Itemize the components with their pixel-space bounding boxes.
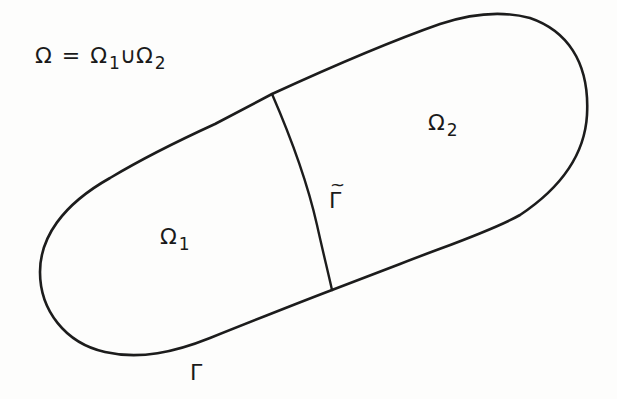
omega1-subscript: 1 [109,53,120,73]
boundary-gamma-symbol: Γ [190,360,202,385]
region-omega2-label: Ω2 [428,112,458,139]
region-omega1-subscript: 1 [179,234,190,254]
domain-union-equation: Ω = Ω1∪Ω2 [35,45,166,72]
region-omega2-symbol: Ω [428,110,445,135]
region-omega2-subscript: 2 [447,120,458,140]
omega2-symbol: Ω [136,43,153,68]
union-symbol: ∪ [120,43,136,68]
omega2-subscript: 2 [155,53,166,73]
interface-gamma-tilde-label: ~ Γ [329,190,341,212]
region-omega1-symbol: Ω [160,224,177,249]
equals-sign: = [62,43,80,68]
omega-symbol: Ω [35,43,52,68]
boundary-gamma-label: Γ [190,362,202,384]
omega1-symbol: Ω [90,43,107,68]
tilde-accent: ~ [330,176,345,194]
region-omega1-label: Ω1 [160,226,190,253]
domain-decomposition-diagram: Ω = Ω1∪Ω2 Ω2 ~ Γ Ω1 Γ [0,0,617,399]
interface-curve [272,94,332,290]
